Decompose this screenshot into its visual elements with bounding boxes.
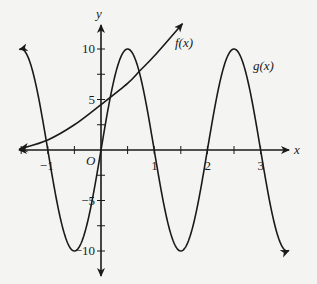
y-tick-label: −10 <box>75 243 95 258</box>
x-axis-label: x <box>293 142 300 157</box>
labels: y x O f(x) g(x) <box>86 6 300 168</box>
plot-area: −1123105−5−10 y x O f(x) g(x) <box>0 0 317 284</box>
y-axis-label: y <box>94 6 102 21</box>
y-tick-label: 5 <box>89 92 96 107</box>
curves <box>19 24 289 251</box>
function-graph: −1123105−5−10 y x O f(x) g(x) <box>0 0 317 284</box>
g-curve-label: g(x) <box>253 58 274 73</box>
origin-label: O <box>86 153 96 168</box>
f-curve-label: f(x) <box>175 35 193 50</box>
y-tick-label: 10 <box>82 41 95 56</box>
f-left-arrow-icon <box>19 143 29 153</box>
